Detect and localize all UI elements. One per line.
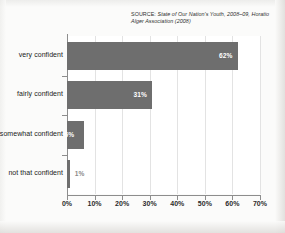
bar-value-label: 1% — [75, 170, 85, 177]
category-label: not that confident — [0, 169, 63, 176]
category-label: somewhat confident — [0, 130, 63, 137]
bar-value-label: 6% — [65, 131, 75, 138]
x-axis-tick-label: 70% — [247, 200, 273, 207]
x-axis-tick-label: 30% — [137, 200, 163, 207]
chart-figure: SOURCE: State of Our Nation's Youth, 200… — [0, 0, 285, 233]
source-note: SOURCE: State of Our Nation's Youth, 200… — [131, 11, 276, 26]
x-axis-tick-label: 20% — [109, 200, 135, 207]
bar — [67, 160, 70, 188]
bar-value-label: 62% — [219, 52, 233, 59]
source-note-lead: SOURCE: — [131, 11, 156, 17]
x-axis-tick-label: 40% — [164, 200, 190, 207]
source-note-line1: State of Our Nation's Youth, 2008–09, — [157, 11, 249, 17]
bar-value-label: 31% — [133, 91, 147, 98]
category-label: fairly confident — [0, 90, 63, 97]
bar — [67, 42, 238, 70]
category-labels: very confidentfairly confidentsomewhat c… — [0, 0, 63, 233]
page-edge-shading-right — [275, 0, 285, 233]
x-axis-tick-label: 50% — [192, 200, 218, 207]
x-axis-tick-label: 0% — [54, 200, 80, 207]
x-axis-tick-label: 10% — [82, 200, 108, 207]
gridline — [260, 36, 261, 194]
category-label: very confident — [0, 51, 63, 58]
x-axis-tick-label: 60% — [219, 200, 245, 207]
